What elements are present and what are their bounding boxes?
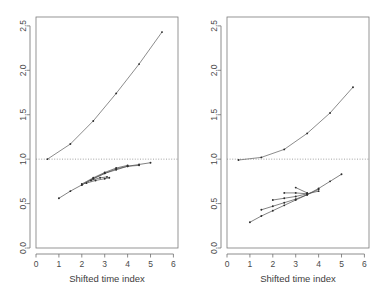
panel-right: 0123456Shifted time index0.00.51.01.52.0… <box>190 0 380 298</box>
data-point <box>306 192 308 194</box>
data-point <box>295 192 297 194</box>
data-point <box>272 205 274 207</box>
data-point <box>260 215 262 217</box>
data-point <box>69 190 71 192</box>
data-point <box>108 177 110 179</box>
plot-frame <box>227 17 369 248</box>
data-point <box>318 188 320 190</box>
data-point <box>95 180 97 182</box>
data-point <box>329 112 331 114</box>
data-point <box>283 197 285 199</box>
data-point <box>138 164 140 166</box>
x-tick-label: 1 <box>248 259 253 269</box>
panel-left: 0123456Shifted time index0.00.51.01.52.0… <box>0 0 190 298</box>
series-line-lower-curve-2 <box>261 189 318 209</box>
data-point <box>260 156 262 158</box>
y-tick-label: 2.0 <box>209 64 219 76</box>
data-point <box>238 159 240 161</box>
data-point <box>295 187 297 189</box>
y-tick-label: 2.5 <box>209 20 219 32</box>
data-point <box>92 177 94 179</box>
data-point <box>69 143 71 145</box>
series-line-upper-curve <box>47 32 162 159</box>
x-tick-label: 5 <box>148 259 153 269</box>
y-tick-label: 0.5 <box>18 197 28 209</box>
y-tick-label: 0.0 <box>209 242 219 254</box>
data-point <box>352 86 354 88</box>
x-tick-label: 2 <box>79 259 84 269</box>
x-tick-label: 3 <box>102 259 107 269</box>
y-tick-label: 1.5 <box>18 109 28 121</box>
data-point <box>283 192 285 194</box>
series-line-lower-curve-1 <box>59 163 151 199</box>
data-point <box>283 202 285 204</box>
data-point <box>127 164 129 166</box>
data-point <box>106 176 108 178</box>
x-axis-title: Shifted time index <box>260 273 336 284</box>
data-point <box>104 178 106 180</box>
x-tick-label: 6 <box>171 259 176 269</box>
x-tick-label: 4 <box>125 259 130 269</box>
data-point <box>99 177 101 179</box>
data-point <box>81 183 83 185</box>
data-point <box>341 173 343 175</box>
x-tick-label: 6 <box>362 259 367 269</box>
x-tick-label: 0 <box>225 259 230 269</box>
data-point <box>92 120 94 122</box>
data-point <box>295 196 297 198</box>
plot-right: 0123456Shifted time index0.00.51.01.52.0… <box>190 0 381 298</box>
data-point <box>47 158 49 160</box>
data-point <box>150 162 152 164</box>
y-tick-label: 0.5 <box>209 197 219 209</box>
data-point <box>58 197 60 199</box>
x-axis-title: Shifted time index <box>69 273 145 284</box>
y-tick-label: 1.0 <box>18 153 28 165</box>
data-point <box>306 132 308 134</box>
y-tick-label: 2.5 <box>18 20 28 32</box>
data-point <box>260 209 262 211</box>
data-point <box>104 172 106 174</box>
y-tick-label: 1.5 <box>209 109 219 121</box>
y-tick-label: 2.0 <box>18 64 28 76</box>
data-point <box>283 148 285 150</box>
data-point <box>283 204 285 206</box>
y-tick-label: 0.0 <box>18 242 28 254</box>
plot-frame <box>36 17 178 248</box>
x-tick-label: 2 <box>270 259 275 269</box>
x-tick-label: 0 <box>34 259 39 269</box>
data-point <box>115 92 117 94</box>
data-point <box>90 180 92 182</box>
data-point <box>272 210 274 212</box>
data-point <box>318 190 320 192</box>
x-tick-label: 1 <box>57 259 62 269</box>
data-point <box>161 31 163 33</box>
x-tick-label: 3 <box>293 259 298 269</box>
data-point <box>249 221 251 223</box>
series-line-upper-curve <box>238 87 353 160</box>
data-point <box>329 180 331 182</box>
x-tick-label: 5 <box>339 259 344 269</box>
y-tick-label: 1.0 <box>209 153 219 165</box>
data-point <box>272 199 274 201</box>
plot-left: 0123456Shifted time index0.00.51.01.52.0… <box>0 0 190 298</box>
data-point <box>138 63 140 65</box>
x-tick-label: 4 <box>316 259 321 269</box>
figure-container: 0123456Shifted time index0.00.51.01.52.0… <box>0 0 381 298</box>
data-point <box>295 198 297 200</box>
data-point <box>115 167 117 169</box>
series-line-lower-curve-5 <box>296 188 307 193</box>
data-point <box>85 182 87 184</box>
